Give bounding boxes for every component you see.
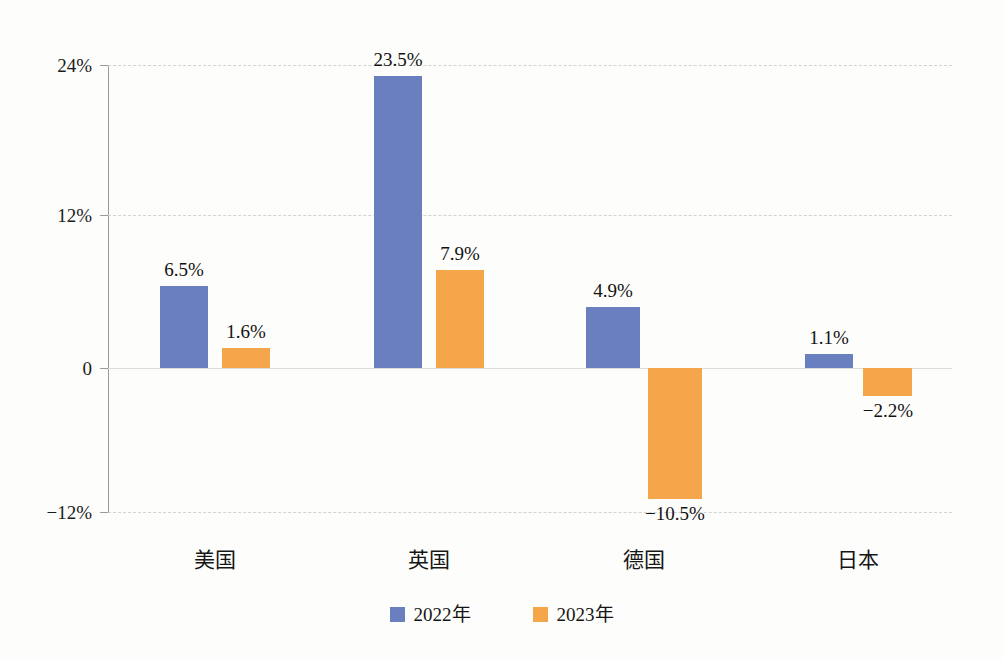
gridline-zero bbox=[108, 368, 952, 369]
legend-swatch-icon bbox=[390, 607, 405, 622]
bar-2022-1 bbox=[374, 76, 422, 368]
bar-2022-2 bbox=[586, 307, 640, 368]
bar-2023-1 bbox=[436, 270, 484, 368]
legend-label: 2023年 bbox=[557, 605, 614, 624]
y-tick-label-text: 24% bbox=[57, 56, 92, 75]
bar-2023-0 bbox=[222, 348, 270, 368]
category-label-0: 美国 bbox=[165, 548, 265, 572]
legend-item-2022: 2022年 bbox=[390, 605, 471, 624]
y-axis-tick bbox=[100, 512, 108, 513]
bar-2023-2 bbox=[648, 368, 702, 499]
category-label-1: 英国 bbox=[379, 548, 479, 572]
y-tick-label-text: −12% bbox=[46, 503, 92, 522]
category-label-3: 日本 bbox=[808, 548, 908, 572]
bar-value-label: 4.9% bbox=[563, 280, 663, 301]
legend-label: 2022年 bbox=[414, 605, 471, 624]
bar-2023-3 bbox=[863, 368, 912, 396]
bar-value-label: 7.9% bbox=[410, 243, 510, 264]
bar-value-label: −10.5% bbox=[625, 503, 725, 524]
y-tick-label-text: 0 bbox=[83, 359, 93, 378]
bar-value-label: 6.5% bbox=[134, 259, 234, 280]
bar-value-label: 1.1% bbox=[779, 327, 879, 348]
y-axis-tick bbox=[100, 215, 108, 216]
bar-chart: 24% 12% 0 −12% 6.5% 1.6% 23.5% 7.9% bbox=[0, 0, 1003, 660]
legend-item-2023: 2023年 bbox=[533, 605, 614, 624]
plot-area: 6.5% 1.6% 23.5% 7.9% 4.9% −10.5% 1.1% −2… bbox=[108, 65, 952, 512]
y-axis-tick bbox=[100, 368, 108, 369]
chart-legend: 2022年 2023年 bbox=[0, 605, 1003, 624]
y-tick-label-text: 12% bbox=[57, 206, 92, 225]
gridline-12 bbox=[108, 215, 952, 216]
bar-value-label: 1.6% bbox=[196, 321, 296, 342]
bar-2022-3 bbox=[805, 354, 853, 368]
bar-value-label: 23.5% bbox=[348, 49, 448, 70]
bar-value-label: −2.2% bbox=[838, 400, 938, 421]
category-label-2: 德国 bbox=[594, 548, 694, 572]
y-axis-tick bbox=[100, 65, 108, 66]
legend-swatch-icon bbox=[533, 607, 548, 622]
gridline-24 bbox=[108, 65, 952, 66]
gridline-neg12 bbox=[108, 512, 952, 513]
